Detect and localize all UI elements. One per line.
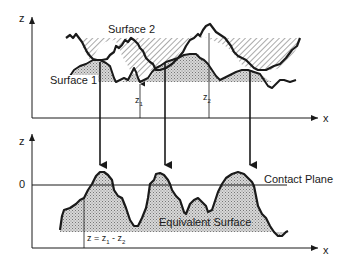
top-panel bbox=[32, 17, 318, 118]
bottom-x-axis-label: x bbox=[323, 245, 329, 256]
bottom-panel bbox=[32, 134, 318, 248]
z1-label: z1 bbox=[135, 96, 143, 107]
equivalent-surface-label: Equivalent Surface bbox=[159, 217, 251, 228]
formula-label: z = z1 - z2 bbox=[87, 234, 125, 245]
formula-prefix: z = z bbox=[87, 233, 106, 243]
surface2-label: Surface 2 bbox=[108, 24, 155, 35]
contact-plane-label: Contact Plane bbox=[264, 174, 333, 185]
formula-mid: - z bbox=[110, 233, 123, 243]
z1-label-sub: 1 bbox=[140, 101, 143, 107]
surface1-label: Surface 1 bbox=[49, 75, 98, 86]
top-x-axis-label: x bbox=[323, 113, 329, 124]
z2-label: z2 bbox=[203, 93, 211, 104]
top-z-axis-label: z bbox=[19, 13, 25, 24]
z2-label-sub: 2 bbox=[208, 98, 211, 104]
bottom-z-axis-label: z bbox=[19, 136, 25, 147]
formula-sub2: 2 bbox=[122, 239, 125, 245]
zero-label: 0 bbox=[19, 179, 25, 190]
